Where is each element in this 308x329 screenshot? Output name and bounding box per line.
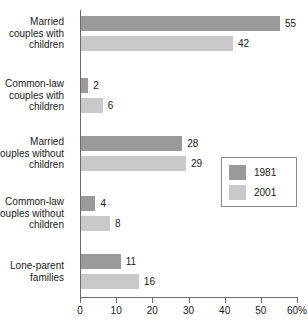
legend-label-1981: 1981 [254,167,276,178]
bar-1981 [81,16,280,31]
bar-group: Common-lawcouples withchildren26 [80,78,298,113]
category-label-line: children [0,101,64,113]
bar-1981 [81,78,88,93]
x-tick-label: 0 [77,305,83,317]
bar-value-label: 55 [285,16,296,31]
bar-value-label: 8 [115,216,121,231]
category-label-line: families [0,272,64,284]
category-label: Marriedcouples withoutchildren [0,136,64,171]
x-tick-label: 10 [111,305,122,317]
category-label-line: children [0,39,64,51]
bar-2001 [81,216,110,231]
x-tick-mark [189,298,190,303]
category-label-line: Lone-parent [0,260,64,272]
x-tick-label: 60% [287,305,307,317]
plot-area: Marriedcouples withchildren5542Common-la… [80,10,298,297]
x-tick-mark [225,298,226,303]
category-label-line: couples with [0,90,64,102]
bar-value-label: 28 [187,136,198,151]
x-tick-mark [297,298,298,303]
bar-group: Marriedcouples withchildren5542 [80,16,298,51]
x-tick-label: 50 [255,305,266,317]
category-label: Common-lawcouples withoutchildren [0,196,64,231]
category-label-line: children [0,159,64,171]
category-label: Marriedcouples withchildren [0,16,64,51]
category-label: Lone-parentfamilies [0,260,64,283]
legend-swatch-1981 [229,165,246,180]
bar-value-label: 4 [100,196,106,211]
legend-item-2001: 2001 [229,185,276,200]
category-label: Common-lawcouples withchildren [0,78,64,113]
legend-label-2001: 2001 [254,187,276,198]
bar-value-label: 11 [126,254,136,269]
bar-value-label: 6 [108,98,114,113]
legend-item-1981: 1981 [229,165,276,180]
category-label-line: Common-law [0,78,64,90]
x-tick-mark [261,298,262,303]
x-tick-label: 30 [183,305,194,317]
bar-1981 [81,254,121,269]
bar-value-label: 29 [191,156,202,171]
bar-value-label: 42 [238,36,249,51]
bar-1981 [81,136,182,151]
legend-swatch-2001 [229,185,246,200]
category-label-line: couples with [0,28,64,40]
x-tick-label: 40 [219,305,230,317]
x-tick-mark [80,298,81,303]
bar-1981 [81,196,95,211]
category-label-line: Common-law [0,196,64,208]
bar-2001 [81,98,103,113]
x-tick-label: 20 [147,305,158,317]
bar-value-label: 16 [144,274,155,289]
category-label-line: couples without [0,148,64,160]
grouped-bar-chart: 0102030405060% Marriedcouples withchildr… [0,0,308,329]
bar-2001 [81,36,233,51]
bar-2001 [81,274,139,289]
category-label-line: Married [0,136,64,148]
category-label-line: Married [0,16,64,28]
bar-value-label: 2 [93,78,99,93]
category-label-line: couples without [0,208,64,220]
bar-group: Lone-parentfamilies1116 [80,254,298,289]
bar-2001 [81,156,186,171]
legend: 1981 2001 [221,157,297,207]
x-tick-mark [116,298,117,303]
category-label-line: children [0,219,64,231]
x-tick-mark [152,298,153,303]
